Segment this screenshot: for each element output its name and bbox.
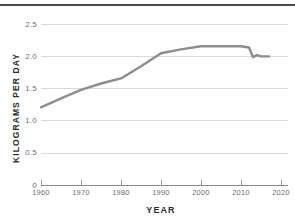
xtick-label-1990: 1990 xyxy=(144,188,178,197)
y-axis-title: KILOGRAMS PER DAY xyxy=(11,43,21,173)
xtick-label-2000: 2000 xyxy=(184,188,218,197)
data-series-kilograms-per-day xyxy=(41,46,269,107)
data-line-path xyxy=(41,46,269,107)
x-axis-title: YEAR xyxy=(41,205,281,215)
xtick-label-2010: 2010 xyxy=(224,188,258,197)
xtick-label-1960: 1960 xyxy=(24,188,58,197)
ytick-label-2-5: 2.5 xyxy=(15,20,37,29)
chart-figure: 2.5 2.0 1.5 1.0 0.5 0 1960 1970 1980 199… xyxy=(0,0,295,223)
xtick-label-1970: 1970 xyxy=(64,188,98,197)
xtick-label-1980: 1980 xyxy=(104,188,138,197)
xtick-label-2020: 2020 xyxy=(264,188,295,197)
gridlines xyxy=(41,24,288,153)
x-axis-ticks xyxy=(41,180,281,185)
